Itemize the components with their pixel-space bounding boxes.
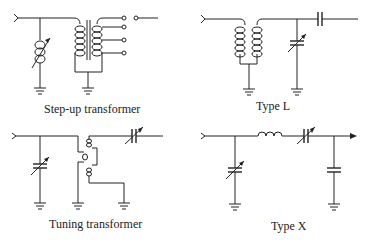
type-l-diagram: Type L [201,12,358,113]
type-l-label: Type L [256,99,290,113]
type-x-diagram: Type X [201,127,357,233]
antenna-matching-circuits: Step-up transformer Type L [0,0,369,246]
tuning-transformer-diagram: Tuning transformer [12,127,163,231]
type-x-label: Type X [271,219,307,233]
tuning-transformer-label: Tuning transformer [49,217,142,231]
step-up-transformer-label: Step-up transformer [44,102,140,116]
step-up-transformer-diagram: Step-up transformer [14,14,158,116]
